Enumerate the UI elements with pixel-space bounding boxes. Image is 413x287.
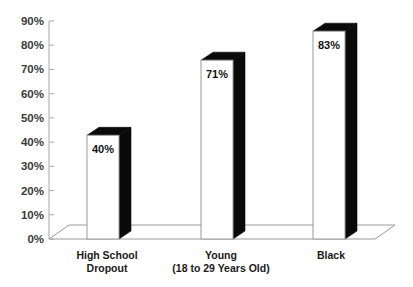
chart-container: 90% 80% 70% 60% 50% 40% 30% 20% 10% 0% 4… <box>0 0 413 287</box>
bar-chart: 90% 80% 70% 60% 50% 40% 30% 20% 10% 0% 4… <box>0 0 413 287</box>
bar-front-face-2[interactable] <box>313 31 345 239</box>
y-tick-label-90: 90% <box>21 15 44 27</box>
bar-value-label-2: 83% <box>318 39 340 51</box>
bar-group-young[interactable]: 71% <box>201 52 245 239</box>
bar-value-label-1: 71% <box>206 68 228 80</box>
x-axis-category-labels: High School Dropout Young (18 to 29 Year… <box>76 249 345 274</box>
y-axis <box>49 21 54 239</box>
y-tick-label-70: 70% <box>21 63 44 75</box>
bar-side-face-2 <box>345 23 357 239</box>
bar-side-face-1 <box>233 52 245 239</box>
y-tick-label-10: 10% <box>21 209 44 221</box>
category-label-0-line-1: Dropout <box>87 262 128 274</box>
y-tick-label-50: 50% <box>21 112 44 124</box>
bar-value-label-0: 40% <box>92 143 114 155</box>
bar-side-face-0 <box>119 127 131 239</box>
y-tick-label-60: 60% <box>21 88 44 100</box>
y-tick-label-40: 40% <box>21 136 44 148</box>
category-label-0-line-0: High School <box>76 249 137 261</box>
category-label-1-line-0: Young <box>205 249 237 261</box>
bar-front-face-1[interactable] <box>201 60 233 239</box>
y-tick-label-30: 30% <box>21 160 44 172</box>
category-label-1-line-1: (18 to 29 Years Old) <box>172 262 269 274</box>
y-tick-label-20: 20% <box>21 185 44 197</box>
category-label-2-line-0: Black <box>317 249 345 261</box>
y-axis-tick-labels: 90% 80% 70% 60% 50% 40% 30% 20% 10% 0% <box>21 15 44 245</box>
y-tick-label-80: 80% <box>21 39 44 51</box>
bar-group-high-school-dropout[interactable]: 40% <box>87 127 131 239</box>
y-tick-label-0: 0% <box>27 233 44 245</box>
bar-group-black[interactable]: 83% <box>313 23 357 239</box>
